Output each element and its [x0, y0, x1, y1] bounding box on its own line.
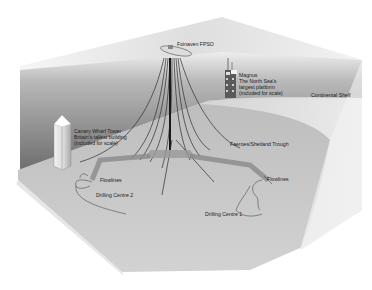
label-flowlines-left: Flowlines	[100, 177, 122, 183]
canary-line-2: (included for scale)	[74, 140, 127, 146]
canary-wharf-tower	[54, 115, 71, 170]
label-drilling-centre-2: Drilling Centre 2	[96, 192, 133, 198]
label-drilling-centre-1: Drilling Centre 1	[205, 211, 242, 217]
label-flowlines-right: Flowlines	[267, 176, 289, 182]
label-magnus: Magnus The North Sea's largest platform …	[239, 72, 283, 96]
magnus-line-3: (included for scale)	[239, 90, 283, 96]
label-trough: Faeroes/Shetland Trough	[230, 141, 289, 147]
riser-base	[146, 150, 196, 158]
label-fpso: Foinaven FPSO	[177, 41, 214, 47]
label-continental-shelf: Continental Shelf	[311, 92, 351, 98]
label-canary-wharf: Canary Wharf Tower Britain's tallest bui…	[74, 128, 127, 146]
